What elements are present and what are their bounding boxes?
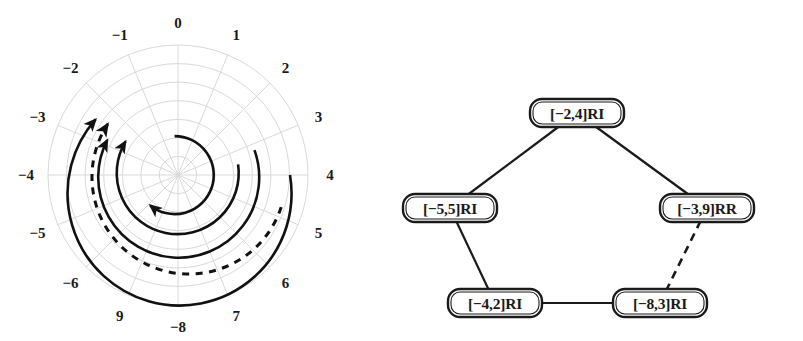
node-label: [−8,3]RI <box>633 295 687 312</box>
polar-tick-label--3: −3 <box>30 109 46 125</box>
polar-tick-label-0: 0 <box>174 15 182 31</box>
polar-tick-label-1: 1 <box>232 27 240 43</box>
graph-edge-e-right-br <box>666 221 700 290</box>
graph-edge-e-left-bl <box>456 221 489 290</box>
grid-spoke <box>178 83 270 175</box>
polar-tick-label-5: 5 <box>315 225 323 241</box>
polar-tick-label--4: −4 <box>18 167 35 183</box>
polar-tick-label-2: 2 <box>282 60 290 76</box>
polar-tick-label--2: −2 <box>62 60 78 76</box>
polar-spiral-plot: 01234567−89−6−5−4−3−2−1 <box>0 0 400 341</box>
node-label: [−5,5]RI <box>423 200 477 217</box>
polar-tick-label--1: −1 <box>112 27 128 43</box>
graph-node-n-right[interactable]: [−3,9]RR <box>660 194 754 222</box>
graph-svg: [−2,4]RI[−5,5]RI[−3,9]RR[−4,2]RI[−8,3]RI <box>400 0 803 341</box>
node-label: [−2,4]RI <box>550 105 604 122</box>
graph-nodes: [−2,4]RI[−5,5]RI[−3,9]RR[−4,2]RI[−8,3]RI <box>403 99 754 317</box>
polar-tick-label-9: 9 <box>116 308 124 324</box>
polar-tick-label-6: 6 <box>282 275 290 291</box>
grid-spoke <box>178 175 270 267</box>
graph-edge-e-top-left <box>467 126 559 195</box>
polar-tick-label-4: 4 <box>326 167 334 183</box>
polar-plot-svg: 01234567−89−6−5−4−3−2−1 <box>0 0 400 341</box>
state-transition-graph: [−2,4]RI[−5,5]RI[−3,9]RR[−4,2]RI[−8,3]RI <box>400 0 803 341</box>
polar-tick-label-7: 7 <box>232 308 240 324</box>
polar-tick-label-3: 3 <box>315 109 323 125</box>
figure-root: 01234567−89−6−5−4−3−2−1 [−2,4]RI[−5,5]RI… <box>0 0 803 341</box>
polar-grid-spokes <box>48 45 308 305</box>
polar-tick-label--6: −6 <box>62 275 79 291</box>
node-label: [−4,2]RI <box>468 295 522 312</box>
graph-node-n-top[interactable]: [−2,4]RI <box>530 99 624 127</box>
node-label: [−3,9]RR <box>677 200 737 217</box>
graph-node-n-bottom-left[interactable]: [−4,2]RI <box>448 289 542 317</box>
polar-tick-label--8: −8 <box>170 319 186 335</box>
graph-node-n-bottom-right[interactable]: [−8,3]RI <box>613 289 707 317</box>
graph-node-n-left[interactable]: [−5,5]RI <box>403 194 497 222</box>
graph-edge-e-top-right <box>595 126 689 195</box>
polar-tick-label--5: −5 <box>30 225 46 241</box>
